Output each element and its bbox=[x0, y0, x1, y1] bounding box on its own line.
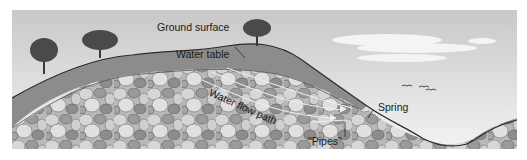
label-water-table: Water table bbox=[176, 49, 229, 60]
groundwater-diagram: Ground surface Water table Water flow pa… bbox=[12, 10, 517, 149]
label-pipes: "Pipes" bbox=[308, 136, 342, 147]
label-spring: Spring bbox=[378, 102, 408, 113]
label-ground-surface: Ground surface bbox=[157, 22, 229, 33]
diagram-canvas bbox=[12, 10, 517, 149]
